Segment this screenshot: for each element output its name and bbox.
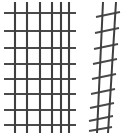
- wire-mesh-illustration: [0, 0, 127, 134]
- mesh-canvas: [0, 0, 127, 134]
- background-rect: [0, 0, 127, 134]
